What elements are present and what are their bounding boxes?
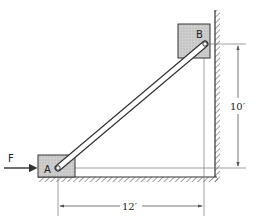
pin-a	[56, 166, 60, 170]
vertical-dimension-label: 10′	[230, 101, 246, 112]
wall	[215, 10, 220, 182]
rod-sliding-blocks-diagram: A B F 10′ 12′	[0, 0, 256, 224]
block-a-label: A	[44, 164, 51, 175]
floor	[38, 177, 218, 182]
horizontal-dimension-label: 12′	[122, 201, 138, 212]
force-label: F	[8, 153, 14, 164]
rod	[58, 44, 205, 168]
pin-b	[203, 42, 207, 46]
block-b-label: B	[196, 29, 203, 40]
